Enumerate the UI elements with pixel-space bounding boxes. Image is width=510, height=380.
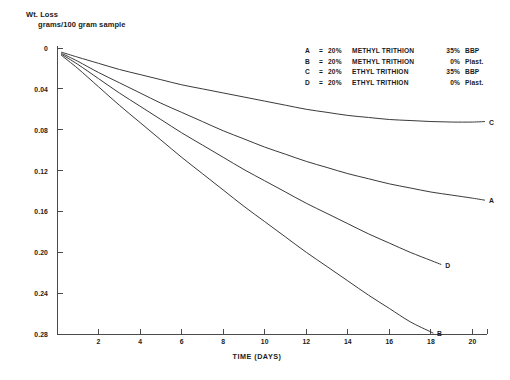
x-axis-tick-label: 18 (427, 338, 435, 345)
legend-pct-text: 20% (328, 57, 352, 68)
y-axis-tick-label: 0 (0, 45, 48, 52)
curve-label-b: B (437, 329, 442, 336)
x-axis-tick-label: 6 (180, 338, 184, 345)
y-axis-tick-label: 0.12 (0, 167, 48, 174)
legend-eq-text: = (319, 78, 328, 89)
curve-b (61, 55, 433, 333)
x-axis-tick-label: 20 (469, 338, 477, 345)
y-axis-tick-label: 0.24 (0, 290, 48, 297)
x-axis-title: TIME (DAYS) (233, 352, 282, 361)
legend-chem-text: ETHYL TRITHION (352, 67, 436, 78)
legend-chem-text: METHYL TRITHION (352, 57, 436, 68)
legend-plast-text: BBP (465, 67, 479, 78)
y-axis-title-line-2: grams/100 gram sample (38, 20, 126, 30)
y-axis-tick-label: 0.04 (0, 85, 48, 92)
curve-label-c: C (489, 118, 494, 125)
y-axis-tick-label: 0.16 (0, 208, 48, 215)
x-axis-tick-label: 2 (97, 338, 101, 345)
legend-item-d: D=20%ETHYL TRITHION0%Plast. (305, 78, 484, 89)
legend-load-text: 0% (436, 57, 465, 68)
legend-plast-text: Plast. (465, 78, 484, 89)
legend-item-b: B=20%METHYL TRITHION0%Plast. (305, 57, 484, 68)
legend-eq-text: = (319, 57, 328, 68)
legend-key-text: B (305, 57, 319, 68)
legend-load-text: 35% (436, 46, 465, 57)
legend-key-text: A (305, 46, 319, 57)
x-axis-tick-label: 14 (344, 338, 352, 345)
legend-chem-text: ETHYL TRITHION (352, 78, 436, 89)
legend-eq-text: = (319, 46, 328, 57)
curve-label-a: A (489, 197, 494, 204)
legend-item-a: A=20%METHYL TRITHION35%BBP (305, 46, 484, 57)
y-axis-tick-label: 0.08 (0, 126, 48, 133)
legend-item-c: C=20%ETHYL TRITHION35%BBP (305, 67, 484, 78)
x-axis-tick-label: 16 (385, 338, 393, 345)
legend-load-text: 0% (436, 78, 465, 89)
y-axis-title: Wt. Loss grams/100 gram sample (26, 10, 126, 30)
legend-key-text: D (305, 78, 319, 89)
y-axis-tick-label: 0.28 (0, 331, 48, 338)
weight-loss-chart: Wt. Loss grams/100 gram sample A=20%METH… (0, 0, 510, 380)
legend-plast-text: BBP (465, 46, 479, 57)
legend-eq-text: = (319, 67, 328, 78)
legend-pct-text: 20% (328, 78, 352, 89)
legend-load-text: 35% (436, 67, 465, 78)
legend-pct-text: 20% (328, 67, 352, 78)
x-axis-tick-label: 8 (221, 338, 225, 345)
legend-plast-text: Plast. (465, 57, 484, 68)
legend: A=20%METHYL TRITHION35%BBPB=20%METHYL TR… (305, 46, 484, 89)
x-axis-tick-label: 12 (302, 338, 310, 345)
x-axis-tick-label: 10 (261, 338, 269, 345)
y-axis-title-line-1: Wt. Loss (26, 10, 126, 20)
x-axis-tick-label: 4 (138, 338, 142, 345)
legend-pct-text: 20% (328, 46, 352, 57)
legend-chem-text: METHYL TRITHION (352, 46, 436, 57)
curve-label-d: D (445, 261, 450, 268)
legend-key-text: C (305, 67, 319, 78)
y-axis-tick-label: 0.20 (0, 249, 48, 256)
